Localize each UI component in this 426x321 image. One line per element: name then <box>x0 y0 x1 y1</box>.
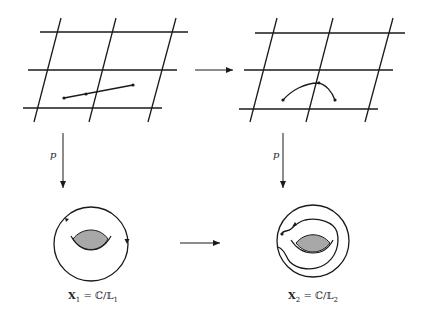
torus-x1 <box>54 207 130 281</box>
right-projection-label: p <box>273 149 279 160</box>
x1-sub: 1 <box>76 296 80 304</box>
x2-var: X <box>288 290 296 301</box>
loop-direction-icon <box>125 239 130 244</box>
x2-quotient-sub: 2 <box>333 296 337 304</box>
x2-quotient: ℂ/𝕃 <box>315 290 333 301</box>
x2-eq: = <box>304 290 312 301</box>
diagram-canvas <box>0 0 426 321</box>
x1-quotient: ℂ/𝕃 <box>95 290 113 301</box>
torus-x2 <box>277 205 349 277</box>
left-projection-label: p <box>50 149 56 160</box>
x2-label: X2 = ℂ/𝕃2 <box>288 290 338 304</box>
x2-sub: 2 <box>296 296 300 304</box>
x1-var: X <box>68 290 76 301</box>
curved-path <box>281 82 336 102</box>
lattice-l2 <box>239 18 405 122</box>
x1-label: X1 = ℂ/𝕃1 <box>68 290 118 304</box>
x1-eq: = <box>84 290 92 301</box>
lattice-l1 <box>23 18 188 122</box>
x1-quotient-sub: 1 <box>113 296 117 304</box>
